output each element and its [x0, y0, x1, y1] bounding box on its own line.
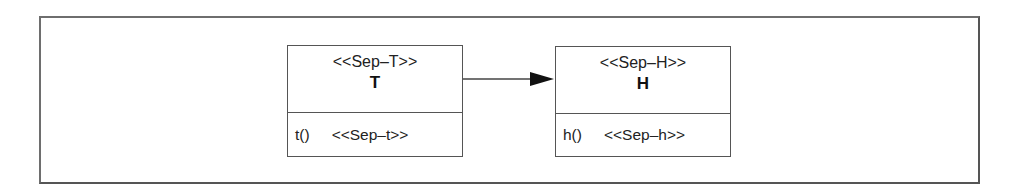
class-box-h[interactable]: <<Sep–H>> H h() <<Sep–h>> — [555, 46, 731, 157]
class-name: T — [288, 73, 462, 93]
operation-stereotype: <<Sep–h>> — [604, 126, 685, 144]
class-operations: t() <<Sep–t>> — [288, 113, 462, 156]
operation-name: h() — [563, 126, 582, 144]
operation-stereotype: <<Sep–t>> — [332, 126, 409, 144]
class-stereotype: <<Sep–T>> — [288, 53, 462, 71]
diagram-frame — [39, 16, 980, 184]
class-header: <<Sep–T>> T — [288, 46, 462, 113]
class-box-t[interactable]: <<Sep–T>> T t() <<Sep–t>> — [287, 45, 463, 157]
class-stereotype: <<Sep–H>> — [556, 54, 730, 72]
operation-name: t() — [295, 126, 310, 144]
class-operations: h() <<Sep–h>> — [556, 114, 730, 156]
class-header: <<Sep–H>> H — [556, 47, 730, 114]
class-name: H — [556, 74, 730, 94]
